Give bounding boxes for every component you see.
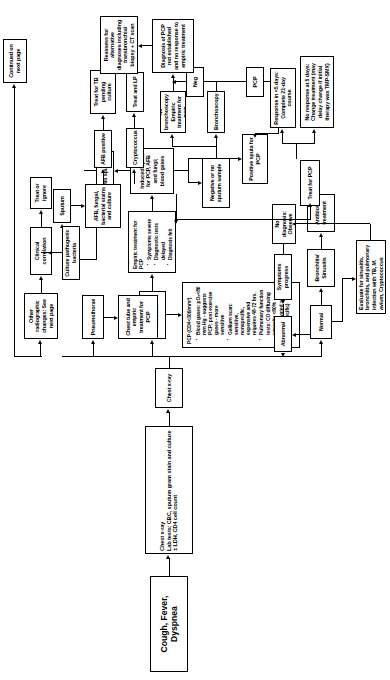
pcp-criteria-title: PCP (CD4<300/mm³) xyxy=(186,286,192,344)
node-dx-of-pcp-not-established: Diagnosis of PCP not established and no … xyxy=(152,19,194,73)
node-negative-or-no-sputum: Negative or no sputum sample xyxy=(202,158,230,208)
empiric-item: Symptoms severe xyxy=(146,215,152,264)
node-other-radiographic-changes: Other radiographic changes: See next pag… xyxy=(24,293,58,339)
node-empiric-treatment-pcp: Empiric treatment for PCP Symptoms sever… xyxy=(128,211,176,273)
node-sputum: Sputum xyxy=(53,189,71,223)
node-treat-for-pcp-main: Treat for PCP xyxy=(300,160,320,206)
node-dx-pcp-not-established xyxy=(152,76,154,80)
node-cryptococcus: Cryptococcus xyxy=(126,128,144,168)
evaluate-text-pre: Evaluate for sinusitis, bronchitis, and … xyxy=(358,245,377,310)
node-no-response-5-days: No response at 5 days: Change treatment … xyxy=(300,56,334,128)
node-pcp: PCP xyxy=(246,67,264,97)
node-pneumothorax: Pneumothorax xyxy=(82,295,104,339)
node-afb-positive: AFB positive xyxy=(94,130,112,168)
node-abnormal: Abnormal xyxy=(274,316,292,352)
node-workup: Chest x-ray Lab tests: CBC, sputum gram … xyxy=(145,426,193,554)
node-reassess-alternative-dx: Reassess for alternative diagnoses inclu… xyxy=(100,16,138,74)
node-treat-and-lp: Treat and LP xyxy=(126,72,144,112)
node-bronchitis-sinusitis: Bronchitis/ Sinusitis xyxy=(307,249,335,287)
workup-line-1: Chest x-ray xyxy=(159,522,165,551)
node-positive-sputa-pcp: Positive sputa for PCP xyxy=(242,134,268,184)
node-normal: Normal xyxy=(310,305,332,339)
pcp-criterion: Blood gases: pO₂<80 mm Hg - suggests PCP… xyxy=(195,286,225,339)
evaluate-text-post: Cryptococcus xyxy=(378,257,384,293)
pcp-criterion: Gallium scan: sensitive, nonspecific, ex… xyxy=(227,286,257,339)
flowchart-canvas: Cough, Fever, Dyspnea Chest x-ray Lab te… xyxy=(0,0,390,680)
node-bronchoscopy: Bronchoscopy xyxy=(207,91,225,133)
node-dx-not-established-box xyxy=(200,124,202,128)
empiric-list: Symptoms severe Diagnostic tests delayed… xyxy=(146,215,176,269)
empiric-title: Empiric treatment for PCP xyxy=(132,215,144,269)
node-no-bronchoscopy-empiric: No bronchoscopy Empiric treatment for PC… xyxy=(160,91,186,133)
node-treat-or-ignore: Treat or ignore xyxy=(30,177,52,209)
node-chest-tube-empiric: Chest tube and empiric treatment for PCP xyxy=(118,295,158,339)
node-afb-stains-culture: AFB, fungal, bacterial stains and cultur… xyxy=(85,184,121,228)
empiric-item: Diagnostic tests delayed xyxy=(153,215,165,264)
node-continued-next-page: Continued on next page xyxy=(3,39,27,83)
workup-line-2: Lab tests: CBC, sputum gram stain and cu… xyxy=(166,431,179,551)
node-response-under-5-days: Response in <5 days: Complete 21-day cou… xyxy=(270,68,296,128)
node-treat-tb: Treat for TB pending culture xyxy=(90,70,116,114)
flowchart-page: Cough, Fever, Dyspnea Chest x-ray Lab te… xyxy=(0,0,390,680)
node-symptoms-progress: Symptoms progress xyxy=(274,254,292,300)
node-culture-pathogenic: Culture pathogenic bacteria xyxy=(62,226,80,280)
node-chest-xray: Chest x-ray xyxy=(155,368,183,408)
node-evaluate-for: Evaluate for sinusitis, bronchitis, and … xyxy=(356,240,386,314)
node-start: Cough, Fever, Dyspnea xyxy=(150,576,188,672)
